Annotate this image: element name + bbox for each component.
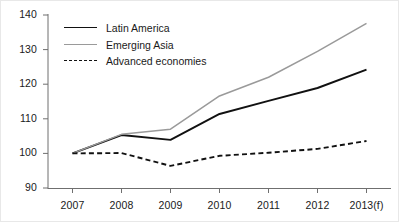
dashed-black-line-icon [64, 56, 97, 66]
y-axis-tick-label: 130 [19, 43, 37, 55]
legend-label: Emerging Asia [106, 39, 174, 51]
chart-figure: 90100110120130140 2007200820092010201120… [0, 0, 399, 222]
legend-item-latin-america: Latin America [64, 21, 244, 35]
chart-legend: Latin America Emerging Asia Advanced eco… [64, 21, 244, 71]
y-axis-tick-label: 120 [19, 77, 37, 89]
legend-label: Latin America [106, 22, 170, 34]
y-axis-tick-label: 90 [25, 181, 37, 193]
solid-gray-line-icon [64, 40, 97, 50]
y-axis-tick-label: 100 [19, 146, 37, 158]
y-axis-tick-label: 140 [19, 8, 37, 20]
series-line-latin-america [73, 70, 367, 154]
y-axis-tick-label: 110 [20, 112, 37, 124]
legend-item-emerging-asia: Emerging Asia [64, 38, 244, 52]
legend-label: Advanced economies [106, 55, 206, 67]
solid-black-line-icon [64, 23, 97, 33]
legend-item-advanced-economies: Advanced economies [64, 54, 244, 68]
x-axis-tick-label: 2013(f) [337, 199, 397, 211]
y-axis-ticks [43, 15, 48, 188]
series-line-advanced-economies [73, 141, 367, 166]
